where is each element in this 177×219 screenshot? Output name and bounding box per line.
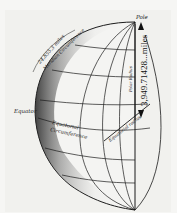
arrow-up-icon [138, 22, 144, 30]
diagram-frame: Pole 24,855.3 miles Meridian Circumferen… [0, 0, 177, 219]
polar-radius-value-label: 3,949.71428...miles [139, 34, 149, 106]
bottom-strip [0, 213, 177, 219]
pole-label: Pole [135, 14, 149, 20]
hemisphere-diagram: Pole 24,855.3 miles Meridian Circumferen… [0, 0, 177, 219]
equator-label: Equator [13, 108, 37, 115]
polar-radius-name-label: Polar Radius [128, 66, 133, 93]
